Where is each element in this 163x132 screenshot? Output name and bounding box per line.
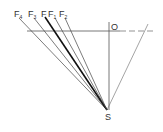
ray-label-f1: F1 bbox=[48, 9, 57, 20]
ray-label-f2: F2 bbox=[59, 9, 68, 20]
perspective-diagram: F4F3FF1F2 O S bbox=[0, 0, 163, 132]
ray-label-f4: F4 bbox=[14, 9, 23, 20]
ray-f2 bbox=[65, 18, 107, 110]
ray-label-f3: F3 bbox=[28, 9, 37, 20]
ray-label-f: F bbox=[41, 9, 47, 19]
point-o-label: O bbox=[111, 22, 118, 32]
ray-labels: F4F3FF1F2 bbox=[14, 9, 68, 20]
right-ray bbox=[107, 24, 148, 110]
point-s-label: S bbox=[105, 112, 111, 122]
ray-f3 bbox=[34, 18, 107, 110]
